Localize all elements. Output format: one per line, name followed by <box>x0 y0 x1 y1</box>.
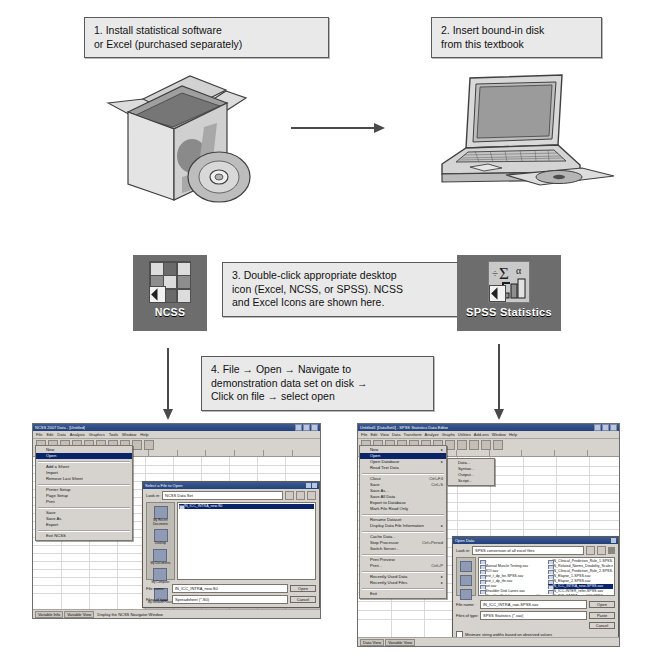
spss-menubar[interactable]: File Edit View Data Transform Analyze Gr… <box>358 431 619 439</box>
ncss-grid-icon <box>149 261 191 303</box>
menu-file[interactable]: File <box>36 432 42 437</box>
file-type-row[interactable]: Files of type: Spreadsheet (*.S0) Cancel <box>143 593 319 607</box>
menu-utilities[interactable]: Utilities <box>458 432 471 437</box>
cancel-button[interactable]: Cancel <box>290 596 316 603</box>
window-controls[interactable] <box>594 424 617 431</box>
ncss-open-dialog[interactable]: Select a File to Open Look in: NCSS Data… <box>142 481 320 608</box>
open-button[interactable]: Open <box>290 585 316 592</box>
up-folder-icon[interactable] <box>586 546 595 555</box>
cancel-button[interactable]: Cancel <box>589 622 615 629</box>
step-1-box: 1. Install statistical software or Excel… <box>84 17 329 58</box>
ncss-screenshot[interactable]: NCSS 2007 Data - [Untitled] File Edit Da… <box>32 423 321 619</box>
file-name-label: File name: <box>146 586 170 591</box>
step-3-line-3: and Excel Icons are shown here. <box>232 296 452 310</box>
menu-edit[interactable]: Edit <box>46 432 53 437</box>
menu-item-print[interactable]: Print <box>36 499 132 505</box>
open-button[interactable]: Open <box>589 601 615 608</box>
step-1-line-1: 1. Install statistical software <box>94 24 319 38</box>
spss-open-data-dialog[interactable]: Open Data Look in: SPSS conversion of al… <box>452 536 619 642</box>
file-type-combo[interactable]: SPSS Statistics (*.sav) <box>480 611 587 620</box>
file-type-combo[interactable]: Spreadsheet (*.S0) <box>172 595 288 604</box>
tab-variable-view[interactable]: Variable View <box>385 639 415 646</box>
file-name-input[interactable]: IN_ICC_INTRA_raw-SPSS.sav <box>480 600 587 609</box>
ncss-statusbar: Variable Info Variable View Display the … <box>33 609 320 618</box>
menu-item-read-text-data[interactable]: Read Text Data <box>360 465 446 471</box>
menu-analysis[interactable]: Analysis <box>70 432 85 437</box>
file-list-column-1[interactable]: .. Manual Muscle Testing.sav ROI.sav tes… <box>480 559 546 594</box>
ncss-file-menu[interactable]: New Open Add a Sheet Import Remove Last … <box>35 445 133 541</box>
new-folder-icon[interactable] <box>296 491 305 500</box>
spss-desktop-icon[interactable]: ÷ Σ α SPSS Statistics <box>457 255 561 331</box>
place-icon-1[interactable] <box>460 561 472 572</box>
menu-graphics[interactable]: Graphics <box>89 432 105 437</box>
file-name-row[interactable]: File name: IN_ICC_INTRA_new.S0 Open <box>143 582 319 593</box>
menu-file[interactable]: File <box>361 432 367 437</box>
window-controls[interactable] <box>295 424 318 431</box>
tab-variable-view[interactable]: Variable View <box>64 611 94 618</box>
dialog-window-controls[interactable] <box>306 483 317 488</box>
sheet-tabs[interactable]: Variable Info Variable View <box>35 611 94 618</box>
ncss-desktop-icon[interactable]: NCSS <box>133 255 207 331</box>
menu-edit[interactable]: Edit <box>370 432 377 437</box>
menu-window[interactable]: Window <box>492 432 506 437</box>
menu-item-exit[interactable]: Exit <box>360 591 446 597</box>
ncss-menubar[interactable]: File Edit Data Analysis Graphics Tools W… <box>33 431 320 439</box>
menu-addons[interactable]: Add-ons <box>474 432 489 437</box>
file-list-item[interactable]: IN_ICC_INTRA_new.S0 <box>179 504 314 509</box>
place-icon-2[interactable] <box>460 575 472 586</box>
menu-item-remove-last-sheet[interactable]: Remove Last Sheet <box>36 476 132 482</box>
menu-help[interactable]: Help <box>140 432 148 437</box>
menu-item-display-data-file-information[interactable]: Display Data File Information▸ <box>360 523 446 529</box>
place-desktop[interactable]: Desktop <box>154 529 168 546</box>
places-bar[interactable] <box>456 557 476 596</box>
file-name-row[interactable]: File name: IN_ICC_INTRA_raw-SPSS.sav Ope… <box>453 598 618 609</box>
file-type-row[interactable]: Files of type: SPSS Statistics (*.sav) P… <box>453 609 618 620</box>
file-list-item[interactable]: Shoulder Disk Lanes_new_variables.sav <box>480 594 546 596</box>
dialog-footer-row[interactable]: Cancel <box>453 620 618 629</box>
spss-open-submenu[interactable]: Data... Syntax... Output... Script... <box>447 458 495 486</box>
tab-data-view[interactable]: Data View <box>360 639 384 646</box>
menu-transform[interactable]: Transform <box>403 432 421 437</box>
menu-item-print[interactable]: Print... Ctrl+P <box>360 563 446 569</box>
menu-help[interactable]: Help <box>509 432 517 437</box>
places-bar[interactable]: My Recent Documents Desktop My Documents… <box>146 502 175 580</box>
arrow-spss-to-screenshot-icon <box>494 344 504 420</box>
menu-data[interactable]: Data <box>392 432 400 437</box>
look-in-row[interactable]: Look in: SPSS conversion of all excel fi… <box>453 544 618 555</box>
file-list[interactable]: IN_ICC_INTRA_new.S0 <box>177 502 316 580</box>
tab-variable-info[interactable]: Variable Info <box>35 611 63 618</box>
menu-item-mark-file-read-only[interactable]: Mark File Read Only <box>360 506 446 512</box>
spss-titlebar: Untitled1 [DataSet0] - SPSS Statistics D… <box>358 424 619 431</box>
file-name-input[interactable]: IN_ICC_INTRA_new.S0 <box>172 584 288 593</box>
views-icon[interactable] <box>608 547 615 554</box>
menu-data[interactable]: Data <box>57 432 65 437</box>
up-folder-icon[interactable] <box>285 491 294 500</box>
menu-item-exit-ncss[interactable]: Exit NCSS <box>36 533 132 539</box>
place-my-documents[interactable]: My Documents <box>150 549 170 566</box>
file-list[interactable]: .. Manual Muscle Testing.sav ROI.sav tes… <box>478 557 615 596</box>
look-in-combo[interactable]: NCSS Data Set <box>162 491 283 500</box>
menu-analyze[interactable]: Analyze <box>425 432 439 437</box>
menu-graphs[interactable]: Graphs <box>442 432 455 437</box>
menu-item-open[interactable]: Open <box>36 453 132 459</box>
view-tabs[interactable]: Data View Variable View <box>360 639 415 646</box>
look-in-combo[interactable]: SPSS conversion of all excel files <box>472 546 584 555</box>
menu-tools[interactable]: Tools <box>109 432 118 437</box>
place-my-recent-documents[interactable]: My Recent Documents <box>148 506 174 526</box>
menu-view[interactable]: View <box>380 432 389 437</box>
dialog-window-controls[interactable] <box>611 538 616 543</box>
menu-item-recently-used-files[interactable]: Recently Used Files▸ <box>360 580 446 586</box>
paste-button[interactable]: Paste <box>589 612 615 619</box>
new-folder-icon[interactable] <box>597 546 606 555</box>
menu-item-switch-server[interactable]: Switch Server... <box>360 546 446 552</box>
spss-file-menu[interactable]: New▸ Open▸ Open Database▸ Read Text Data… <box>359 445 447 599</box>
spss-screenshot[interactable]: Untitled1 [DataSet0] - SPSS Statistics D… <box>357 423 620 647</box>
views-icon[interactable] <box>307 491 316 500</box>
laptop-illustration <box>430 72 620 206</box>
submenu-item-script[interactable]: Script... <box>448 478 494 484</box>
file-list-column-2[interactable]: IN_Clinical_Prediction_Rule_1-SPSS.sav I… <box>548 559 614 594</box>
menu-item-export[interactable]: Export <box>36 522 132 528</box>
file-list-item[interactable]: IN_INT_KAPPA_vst_ICC-SPSS.sav <box>548 594 614 596</box>
look-in-row[interactable]: Look in: NCSS Data Set <box>143 489 319 500</box>
menu-window[interactable]: Window <box>122 432 136 437</box>
